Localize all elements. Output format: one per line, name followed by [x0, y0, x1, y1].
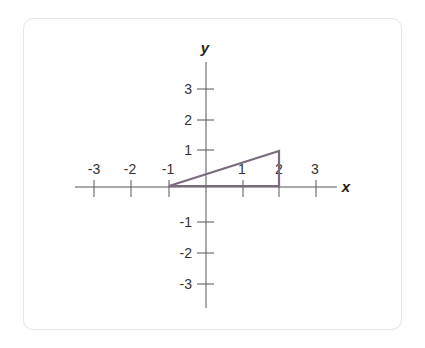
x-tick-label: 3 — [311, 161, 319, 177]
x-ticks — [94, 180, 316, 197]
x-tick-label: -3 — [88, 161, 101, 177]
y-tick-label: -2 — [180, 245, 193, 261]
y-axis-label: y — [200, 39, 210, 56]
y-tick-label: -3 — [180, 276, 193, 292]
y-tick-label: 2 — [184, 112, 192, 128]
x-tick-label: -1 — [162, 161, 175, 177]
y-tick-label: -1 — [180, 214, 193, 230]
x-tick-label: -2 — [124, 161, 137, 177]
y-tick-label: 3 — [184, 81, 192, 97]
y-tick-label: 1 — [184, 142, 192, 158]
x-axis-label: x — [341, 178, 351, 195]
coordinate-plane: -3 -2 -1 1 2 3 3 2 1 -1 -2 -3 x y — [0, 0, 425, 348]
